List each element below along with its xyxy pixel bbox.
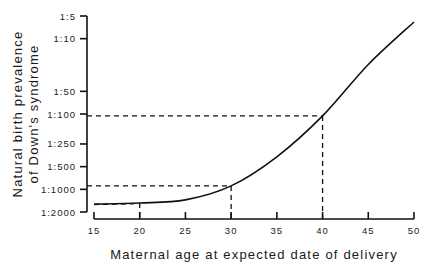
y-tick-label: 1:2000 — [41, 207, 76, 218]
y-tick-label: 1:5 — [60, 11, 76, 22]
y-tick-label: 1:500 — [47, 161, 76, 172]
x-tick-label: 50 — [408, 225, 421, 236]
data-series — [94, 22, 414, 204]
x-tick-label: 20 — [133, 225, 146, 236]
y-tick-label: 1:50 — [54, 86, 77, 97]
y-axis-title-line-1: Natural birth prevalence — [10, 31, 25, 198]
y-tick-label: 1:100 — [47, 109, 76, 120]
x-tick-label: 25 — [179, 225, 192, 236]
y-tick-label: 1:10 — [54, 33, 77, 44]
x-tick-label: 45 — [362, 225, 375, 236]
y-tick-label: 1:250 — [47, 138, 76, 149]
x-tick-label: 35 — [271, 225, 284, 236]
y-axis: 1:51:101:501:1001:2501:5001:10001:2000 — [41, 11, 87, 218]
prevalence-chart: 1:51:101:501:1001:2501:5001:10001:2000 1… — [0, 0, 430, 268]
x-axis: 1520253035404550 — [88, 212, 421, 236]
x-axis-title: Maternal age at expected date of deliver… — [110, 247, 398, 262]
x-tick-label: 15 — [88, 225, 101, 236]
y-tick-label: 1:1000 — [41, 184, 76, 195]
prevalence-curve — [94, 22, 414, 204]
y-axis-title-line-2: of Down's syndrome — [26, 45, 41, 184]
x-tick-label: 30 — [225, 225, 238, 236]
x-tick-label: 40 — [316, 225, 329, 236]
